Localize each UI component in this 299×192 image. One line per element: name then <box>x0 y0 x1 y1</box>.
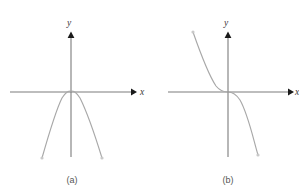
panel-a: x y (a) <box>10 18 145 185</box>
panel-b-curve-endpoint-bottom <box>256 153 259 156</box>
panel-b-caption: (b) <box>223 175 234 185</box>
panel-a-y-axis-label: y <box>66 18 72 28</box>
panel-a-y-axis-arrowhead <box>68 32 75 39</box>
panel-b-y-axis-label: y <box>223 18 229 28</box>
panel-a-caption: (a) <box>67 175 78 185</box>
panel-a-x-axis-label: x <box>139 87 145 97</box>
panel-a-curve-path <box>42 91 102 158</box>
panel-a-curve-endpoint-right <box>100 156 103 159</box>
graphs-svg-canvas: x y (a) x y (b) <box>0 0 299 192</box>
panel-b-curve-endpoint-top <box>191 30 194 33</box>
panel-b-x-axis-arrowhead <box>288 89 294 96</box>
panel-b-curve-path <box>193 32 258 155</box>
panel-b-x-axis-label: x <box>294 87 299 97</box>
panel-a-x-axis-arrowhead <box>131 89 137 96</box>
panel-b-y-axis-arrowhead <box>225 32 232 39</box>
panel-a-curve-endpoint-left <box>40 156 43 159</box>
panel-b: x y (b) <box>168 18 299 185</box>
figure-container: x y (a) x y (b) <box>0 0 299 192</box>
